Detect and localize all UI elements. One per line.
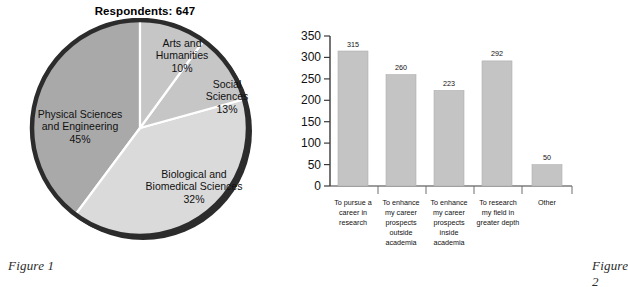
- cat-line: To pursue a: [334, 198, 372, 207]
- x-category-label-other: Other: [538, 198, 557, 207]
- cat-line: Other: [538, 198, 557, 207]
- pie-label-line1: Social: [196, 78, 258, 90]
- bar-other: [532, 165, 562, 186]
- pie-label-percent: 32%: [132, 193, 256, 205]
- cat-line: research: [339, 218, 367, 227]
- pie-label-percent: 13%: [196, 103, 258, 115]
- cat-line: To enhance: [430, 198, 467, 207]
- cat-line: academia: [385, 238, 416, 247]
- pie-label-percent: 10%: [140, 62, 224, 74]
- x-category-label-to-pursue-a-career-in-research: To pursue a career in research: [334, 198, 372, 227]
- figure-2-caption: Figure 2: [592, 258, 628, 287]
- pie-label-line1: Arts and: [140, 37, 224, 49]
- cat-line: career in: [339, 208, 367, 217]
- pie-chart-title: Respondents: 647: [0, 5, 290, 17]
- x-category-label-to-enhance-my-career-prospects-outside-academia: To enhance my career prospects outside a…: [382, 198, 419, 247]
- cat-line: outside: [389, 228, 412, 237]
- cat-line: my career: [385, 208, 418, 217]
- bar-value-label-260: 260: [395, 63, 407, 72]
- bar-to-pursue-a-career-in-research: [338, 51, 368, 186]
- pie-label-biological-and-biomedical-sciences: Biological and Biomedical Sciences 32%: [132, 168, 256, 205]
- y-axis-ticks: [324, 36, 330, 186]
- cat-line: prospects: [385, 218, 417, 227]
- y-tick-label-50: 50: [308, 158, 322, 172]
- x-axis-category-separators: [378, 186, 572, 194]
- figure-1-caption: Figure 1: [8, 258, 54, 274]
- bar-to-enhance-my-career-prospects-outside-academia: [386, 75, 416, 186]
- pie-label-arts-and-humanities: Arts and Humanities 10%: [140, 37, 224, 74]
- pie-label-line1: Biological and: [132, 168, 256, 180]
- bar-value-label-292: 292: [491, 49, 503, 58]
- pie-label-physical-sciences-and-engineering: Physical Sciences and Engineering 45%: [24, 108, 136, 145]
- y-tick-label-200: 200: [301, 93, 321, 107]
- pie-label-line1: Physical Sciences: [24, 108, 136, 120]
- bar-value-label-315: 315: [347, 40, 359, 49]
- pie-label-line2: Biomedical Sciences: [132, 180, 256, 192]
- pie-label-line2: Sciences: [196, 90, 258, 102]
- y-tick-label-100: 100: [301, 136, 321, 150]
- cat-line: prospects: [433, 218, 465, 227]
- y-tick-label-0: 0: [314, 179, 321, 193]
- bar-value-label-50: 50: [543, 153, 551, 162]
- cat-line: academia: [433, 238, 464, 247]
- y-tick-label-150: 150: [301, 115, 321, 129]
- x-category-label-to-enhance-my-career-prospects-inside-academia: To enhance my career prospects inside ac…: [430, 198, 467, 247]
- pie-label-line2: Humanities: [140, 49, 224, 61]
- cat-line: my field in: [482, 208, 514, 217]
- bar-to-enhance-my-career-prospects-inside-academia: [434, 90, 464, 186]
- cat-line: my career: [433, 208, 466, 217]
- y-tick-label-250: 250: [301, 72, 321, 86]
- x-category-label-to-research-my-field-in-greater-depth: To research my field in greater depth: [477, 198, 520, 227]
- pie-label-social-sciences: Social Sciences 13%: [196, 78, 258, 115]
- figure-1-pie-panel: Respondents: 647 Arts and Humanities 10%…: [0, 0, 290, 287]
- pie-label-line2: and Engineering: [24, 120, 136, 132]
- pie-label-percent: 45%: [24, 133, 136, 145]
- bar-to-research-my-field-in-greater-depth: [482, 61, 512, 186]
- cat-line: To research: [479, 198, 517, 207]
- y-tick-label-300: 300: [301, 50, 321, 64]
- bar-chart-svg: 350 300 250 200 150 100 50 0 315 260 223…: [290, 10, 590, 255]
- figure-2-bar-panel: 350 300 250 200 150 100 50 0 315 260 223…: [290, 0, 594, 287]
- cat-line: greater depth: [477, 218, 520, 227]
- cat-line: inside: [440, 228, 459, 237]
- y-tick-label-350: 350: [301, 29, 321, 43]
- bar-value-label-223: 223: [443, 79, 455, 88]
- cat-line: To enhance: [382, 198, 419, 207]
